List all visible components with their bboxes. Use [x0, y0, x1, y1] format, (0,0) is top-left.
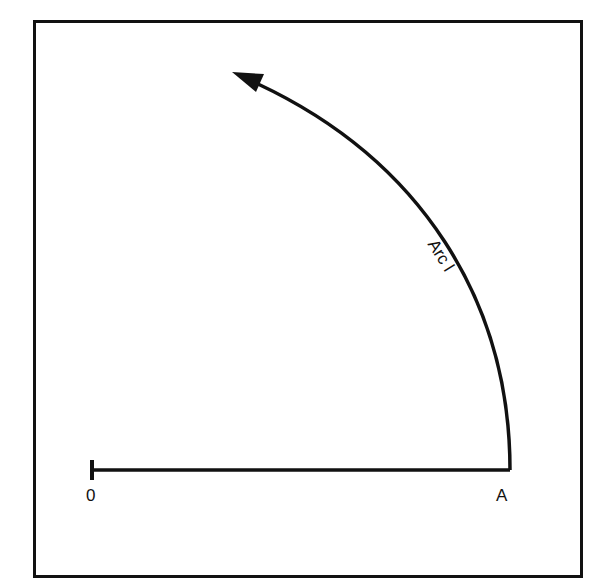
- arrowhead-icon: [232, 72, 264, 92]
- arc-l: [258, 84, 510, 470]
- origin-label: 0: [86, 486, 95, 506]
- point-a-label: A: [496, 486, 507, 506]
